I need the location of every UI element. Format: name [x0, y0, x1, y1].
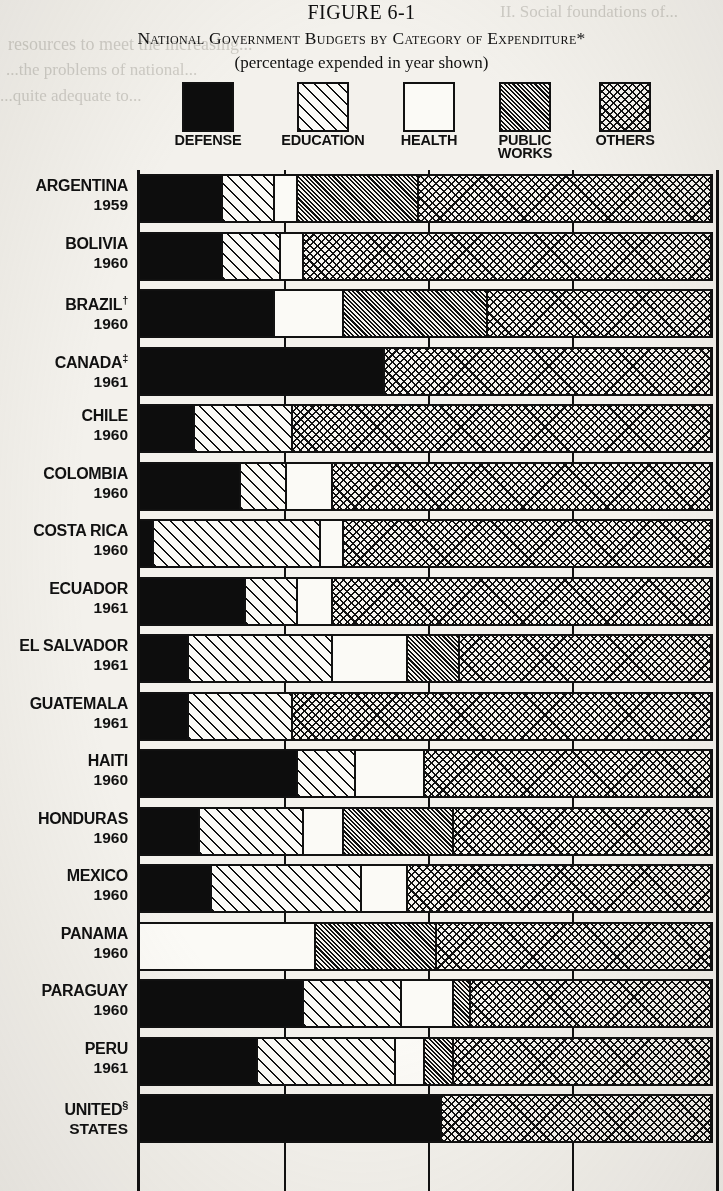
row-country: CANADA‡ — [0, 349, 128, 372]
legend-label: HEALTH — [388, 134, 470, 147]
bar-edge-left — [137, 347, 140, 396]
bar-edge-left — [137, 577, 140, 626]
row-year: 1961 — [0, 372, 128, 391]
row-label-guatemala: GUATEMALA1961 — [0, 694, 128, 732]
bar-segment-health — [137, 924, 316, 969]
stacked-bar — [137, 1037, 713, 1086]
row-country: PARAGUAY — [0, 981, 128, 1000]
bar-edge-right — [710, 749, 713, 798]
bar-segment-defense — [137, 694, 189, 739]
row-country: MEXICO — [0, 866, 128, 885]
bar-edge-left — [137, 174, 140, 223]
bar-segment-education — [223, 176, 275, 221]
legend-swatch-health — [403, 82, 455, 132]
bar-segment-defense — [137, 981, 304, 1026]
bar-segment-others — [385, 349, 713, 394]
row-year: STATES — [0, 1119, 128, 1138]
bar-segment-defense — [137, 176, 223, 221]
legend-item-health: HEALTH — [388, 82, 470, 147]
bar-edge-right — [710, 634, 713, 683]
legend-item-defense: DEFENSE — [160, 82, 256, 147]
stacked-bar — [137, 922, 713, 971]
bar-edge-left — [137, 979, 140, 1028]
figure-subtitle: (percentage expended in year shown) — [0, 53, 723, 73]
bar-segment-defense — [137, 579, 246, 624]
chart-row: HONDURAS1960 — [0, 803, 723, 860]
row-label-honduras: HONDURAS1960 — [0, 809, 128, 847]
bar-segment-health — [333, 636, 408, 681]
bar-segment-education — [189, 694, 293, 739]
bar-segment-defense — [137, 636, 189, 681]
figure-number: FIGURE 6-1 — [0, 1, 723, 24]
bar-segment-others — [293, 694, 713, 739]
bar-edge-left — [137, 864, 140, 913]
chart-row: ECUADOR1961 — [0, 573, 723, 630]
bar-segment-others — [471, 981, 713, 1026]
legend-label: PUBLICWORKS — [482, 134, 568, 160]
stacked-bar — [137, 692, 713, 741]
bar-segment-others — [333, 464, 713, 509]
bar-segment-others — [419, 176, 713, 221]
bar-segment-health — [362, 866, 408, 911]
bar-segment-education — [241, 464, 287, 509]
row-label-argentina: ARGENTINA1959 — [0, 176, 128, 214]
bar-segment-defense — [137, 809, 200, 854]
bar-segment-public-works — [344, 291, 488, 336]
row-country: COLOMBIA — [0, 464, 128, 483]
bar-edge-left — [137, 634, 140, 683]
row-year: 1960 — [0, 483, 128, 502]
row-label-mexico: MEXICO1960 — [0, 866, 128, 904]
row-label-brazil: BRAZIL†1960 — [0, 291, 128, 333]
bar-edge-left — [137, 1037, 140, 1086]
figure-title: National Government Budgets by Category … — [0, 28, 723, 49]
bar-edge-right — [710, 404, 713, 453]
bar-edge-left — [137, 289, 140, 338]
row-country: ECUADOR — [0, 579, 128, 598]
bar-edge-right — [710, 692, 713, 741]
chart-row: MEXICO1960 — [0, 860, 723, 917]
bar-segment-health — [304, 809, 344, 854]
row-label-haiti: HAITI1960 — [0, 751, 128, 789]
chart-row: CANADA‡1961 — [0, 343, 723, 400]
legend-swatch-defense — [182, 82, 234, 132]
row-year: 1960 — [0, 314, 128, 333]
stacked-bar-chart: ARGENTINA1959BOLIVIA1960BRAZIL†1960CANAD… — [0, 170, 723, 1191]
row-label-costa-rica: COSTA RICA1960 — [0, 521, 128, 559]
bar-segment-education — [298, 751, 356, 796]
bar-edge-right — [710, 807, 713, 856]
chart-row: CHILE1960 — [0, 400, 723, 457]
row-year: 1960 — [0, 1000, 128, 1019]
bar-segment-others — [304, 234, 713, 279]
chart-row: BOLIVIA1960 — [0, 228, 723, 285]
bar-edge-right — [710, 289, 713, 338]
legend-swatch-education — [297, 82, 349, 132]
bar-segment-public-works — [454, 981, 471, 1026]
bar-segment-defense — [137, 291, 275, 336]
stacked-bar — [137, 634, 713, 683]
bar-segment-health — [402, 981, 454, 1026]
row-country: PERU — [0, 1039, 128, 1058]
row-label-united: UNITED§STATES — [0, 1096, 128, 1138]
chart-row: PERU1961 — [0, 1033, 723, 1090]
stacked-bar — [137, 174, 713, 223]
row-year: 1960 — [0, 770, 128, 789]
bar-segment-others — [293, 406, 713, 451]
chart-row: COLOMBIA1960 — [0, 458, 723, 515]
row-country: EL SALVADOR — [0, 636, 128, 655]
row-country: HAITI — [0, 751, 128, 770]
row-country: BOLIVIA — [0, 234, 128, 253]
bar-segment-health — [275, 291, 344, 336]
chart-row: COSTA RICA1960 — [0, 515, 723, 572]
stacked-bar — [137, 404, 713, 453]
bar-segment-others — [333, 579, 713, 624]
bar-edge-left — [137, 519, 140, 568]
chart-row: BRAZIL†1960 — [0, 285, 723, 342]
chart-row: ARGENTINA1959 — [0, 170, 723, 227]
bar-edge-left — [137, 922, 140, 971]
bar-edge-right — [710, 979, 713, 1028]
stacked-bar — [137, 749, 713, 798]
page-bleed-text-4: ...quite adequate to... — [0, 86, 142, 106]
legend-item-public-works: PUBLICWORKS — [482, 82, 568, 160]
row-year: 1960 — [0, 425, 128, 444]
row-country: PANAMA — [0, 924, 128, 943]
